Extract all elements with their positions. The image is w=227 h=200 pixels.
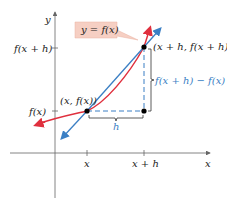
- fx-tick-label: f(x): [28, 106, 46, 117]
- y-axis-label: y: [44, 14, 51, 25]
- secant-line: [87, 29, 160, 111]
- x-axis-label: x: [205, 158, 211, 169]
- function-label: y = f(x): [80, 24, 119, 35]
- corner-point: [141, 108, 146, 113]
- secant-line-lower: [62, 111, 87, 138]
- point-xh-fxh-label: (x + h, f(x + h)): [153, 41, 227, 52]
- difference-label: f(x + h) − f(x): [154, 75, 225, 86]
- difference-bracket: [148, 49, 154, 111]
- fxh-tick-label: f(x + h): [13, 43, 52, 54]
- x-tick-label: x: [84, 158, 90, 169]
- secant-line-diagram: y = f(x) y x x x + h f(x + h) f(x) (x, f…: [0, 0, 227, 200]
- x-plus-h-tick-label: x + h: [132, 158, 159, 169]
- point-xh-fxh: [141, 44, 146, 49]
- point-x-fx-label: (x, f(x)): [60, 95, 97, 106]
- h-label: h: [113, 121, 119, 132]
- point-x-fx: [84, 108, 89, 113]
